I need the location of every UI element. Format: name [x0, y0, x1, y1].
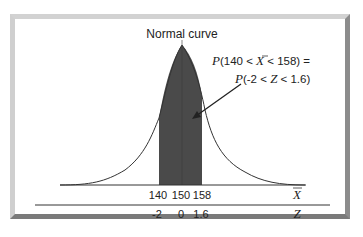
x-tick-label: 140: [149, 189, 167, 201]
z-tick-label: -2: [152, 208, 162, 220]
x-tick-label: 150: [172, 189, 190, 201]
figure-title: Normal curve: [146, 27, 218, 41]
annotation-line-1: P(140 < X < 158) =: [211, 53, 310, 68]
z-axis-label: Z: [293, 206, 301, 221]
z-tick-label: 0: [178, 208, 184, 220]
x-axis-label: X: [292, 187, 302, 202]
annotation-line-2: P(-2 < Z < 1.6): [234, 71, 310, 86]
x-tick-label: 158: [193, 189, 211, 201]
z-tick-label: 1.6: [193, 208, 208, 220]
normal-curve-figure: Normal curve P(140 < X < 158) = P(-2 < Z…: [0, 0, 363, 237]
